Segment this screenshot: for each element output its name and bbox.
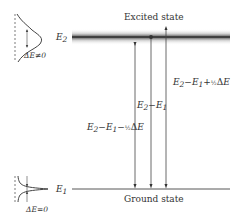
excited-state-label: Excited state (124, 12, 184, 22)
ground-state-label: Ground state (124, 194, 184, 204)
label-center: E2−E1 (136, 100, 167, 112)
arrowhead-icon (165, 26, 168, 30)
arrowhead-icon (150, 184, 153, 189)
arrowhead-icon (134, 184, 137, 189)
energy-level-diagram: Excited state E2 E1 Ground state E2−E1+½… (0, 0, 242, 222)
e1-label: E1 (55, 184, 67, 196)
label-plus-half: E2−E1+½ΔE (172, 77, 230, 89)
lower-line-profile-inset (15, 176, 48, 203)
dot-icon (149, 35, 153, 39)
label-minus-half: E2−E1−½ΔE (86, 122, 144, 134)
arrowhead-icon (165, 184, 168, 189)
delta-e-nonzero-label: ΔE≠0 (23, 51, 46, 60)
delta-e-zero-label: ΔE=0 (25, 205, 48, 214)
e2-label: E2 (55, 32, 68, 44)
